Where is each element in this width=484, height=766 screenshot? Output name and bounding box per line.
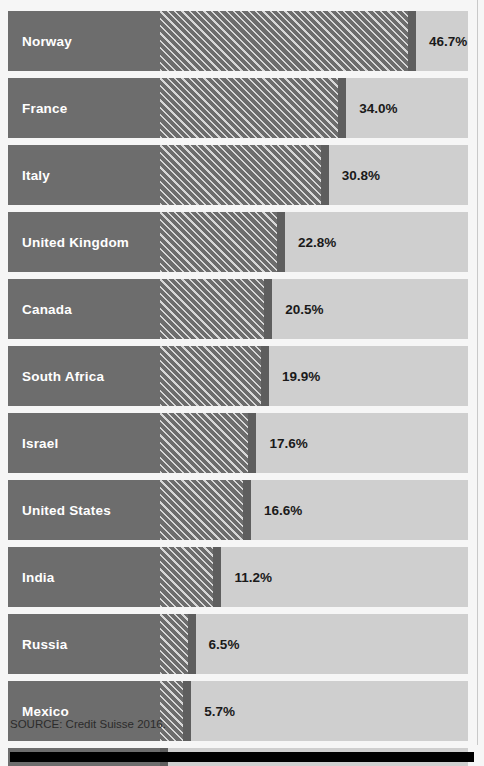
value-label: 17.6% [269, 413, 307, 473]
bar-end-cap [261, 346, 269, 406]
category-label-block: Israel [8, 413, 160, 473]
bar-end-cap [277, 212, 285, 272]
bar-row[interactable]: Russia6.5% [0, 614, 484, 674]
value-label: 16.6% [264, 480, 302, 540]
bar-fill [160, 480, 243, 540]
bar-fill [160, 11, 408, 71]
value-label: 5.7% [204, 681, 235, 741]
category-label-block: Russia [8, 614, 160, 674]
bar-row[interactable]: Italy30.8% [0, 145, 484, 205]
category-label-block: South Africa [8, 346, 160, 406]
category-label-block: Italy [8, 145, 160, 205]
value-label: 46.7% [429, 11, 467, 71]
category-label-block: India [8, 547, 160, 607]
category-label: Norway [22, 34, 72, 49]
category-label: France [22, 101, 67, 116]
category-label: United States [22, 503, 111, 518]
bar-end-cap [264, 279, 272, 339]
category-label-block: France [8, 78, 160, 138]
bar-end-cap [188, 614, 196, 674]
bar-row[interactable]: Israel17.6% [0, 413, 484, 473]
value-label: 6.5% [209, 614, 240, 674]
bar-fill [160, 681, 183, 741]
category-label: South Africa [22, 369, 104, 384]
bottom-rule [10, 752, 474, 762]
value-label: 22.8% [298, 212, 336, 272]
category-label: India [22, 570, 55, 585]
bar-rows-container: Norway46.7%France34.0%Italy30.8%United K… [0, 11, 484, 766]
bar-fill [160, 279, 264, 339]
top-text-fragment [8, 0, 308, 9]
bar-row[interactable]: United Kingdom22.8% [0, 212, 484, 272]
bar-fill [160, 78, 338, 138]
bar-row[interactable]: Norway46.7% [0, 11, 484, 71]
chart-page: Norway46.7%France34.0%Italy30.8%United K… [0, 0, 484, 766]
bar-end-cap [183, 681, 191, 741]
category-label: Mexico [22, 704, 69, 719]
bar-end-cap [213, 547, 221, 607]
value-label: 30.8% [342, 145, 380, 205]
bar-fill [160, 346, 261, 406]
bar-end-cap [243, 480, 251, 540]
value-label: 11.2% [234, 547, 272, 607]
bar-end-cap [338, 78, 346, 138]
bar-row[interactable]: South Africa19.9% [0, 346, 484, 406]
source-note: SOURCE: Credit Suisse 2016. [10, 718, 166, 730]
value-label: 19.9% [282, 346, 320, 406]
bar-row[interactable]: India11.2% [0, 547, 484, 607]
bar-fill [160, 145, 321, 205]
category-label: United Kingdom [22, 235, 129, 250]
bar-row[interactable]: United States16.6% [0, 480, 484, 540]
bar-end-cap [408, 11, 416, 71]
category-label-block: Canada [8, 279, 160, 339]
category-label: Russia [22, 637, 67, 652]
bar-end-cap [321, 145, 329, 205]
value-label: 34.0% [359, 78, 397, 138]
category-label-block: Mexico [8, 681, 160, 741]
category-label-block: United States [8, 480, 160, 540]
bar-fill [160, 614, 188, 674]
category-label: Canada [22, 302, 72, 317]
value-label: 20.5% [285, 279, 323, 339]
category-label: Israel [22, 436, 58, 451]
bar-fill [160, 413, 248, 473]
category-label: Italy [22, 168, 50, 183]
bar-fill [160, 547, 213, 607]
category-label-block: United Kingdom [8, 212, 160, 272]
bar-row[interactable]: France34.0% [0, 78, 484, 138]
category-label-block: Norway [8, 11, 160, 71]
right-border-rule [477, 0, 478, 745]
bar-fill [160, 212, 277, 272]
bar-row[interactable]: Mexico5.7% [0, 681, 484, 741]
bar-row[interactable]: Canada20.5% [0, 279, 484, 339]
bar-end-cap [248, 413, 256, 473]
